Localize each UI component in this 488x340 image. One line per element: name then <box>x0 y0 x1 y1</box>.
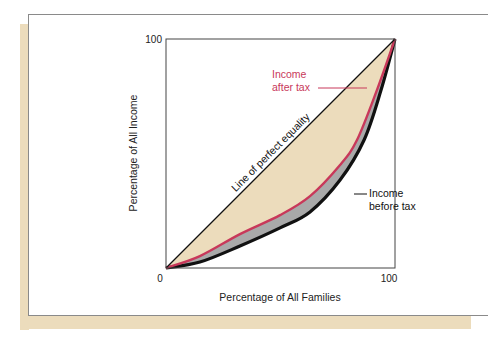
y-axis-title: Percentage of All Income <box>127 94 139 211</box>
x-axis-title: Percentage of All Families <box>219 291 340 303</box>
before-tax-label-line1: Income <box>369 187 404 199</box>
x-tick-max: 100 <box>381 273 398 284</box>
after-tax-label-line1: Income <box>272 68 307 80</box>
before-tax-label-line2: before tax <box>369 200 416 212</box>
y-tick-max: 100 <box>145 34 162 45</box>
x-tick-min: 0 <box>157 273 163 284</box>
after-tax-label-line2: after tax <box>272 81 311 93</box>
